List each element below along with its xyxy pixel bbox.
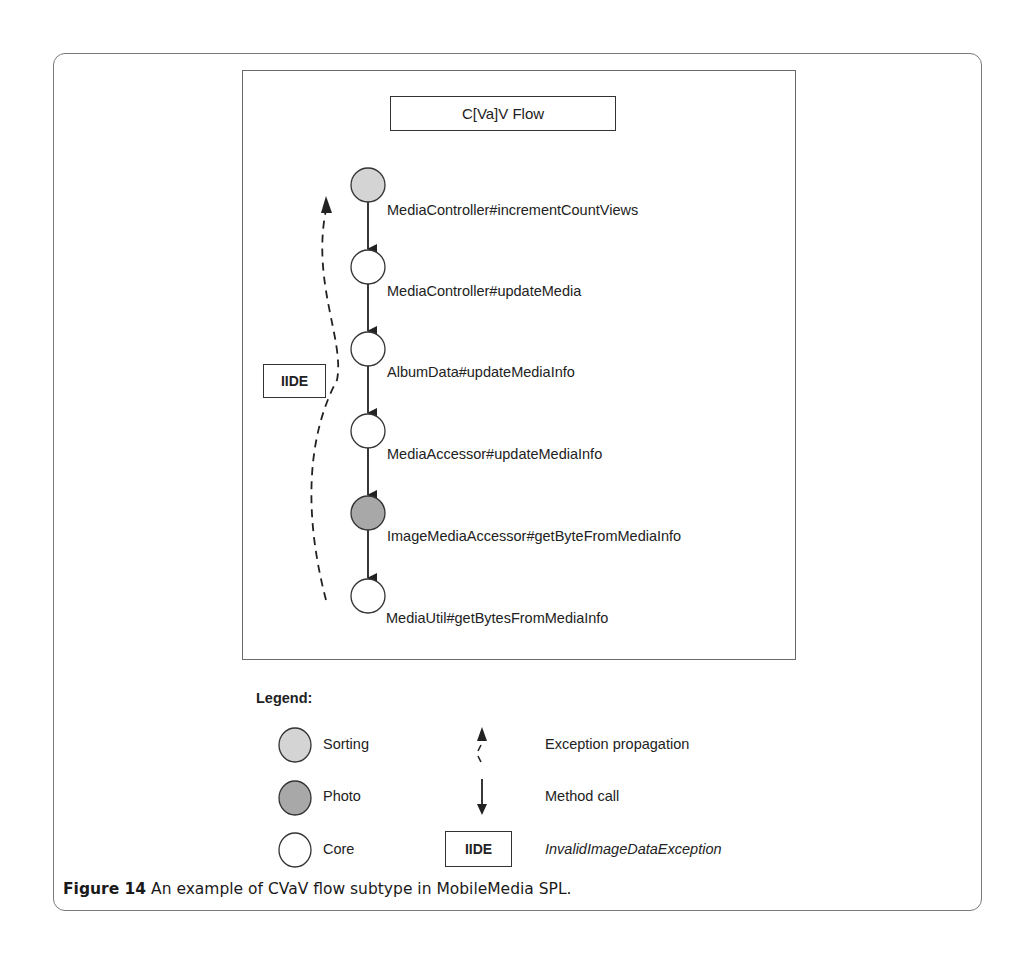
exception-label: IIDE xyxy=(281,373,308,389)
node-label: MediaAccessor#updateMediaInfo xyxy=(387,446,602,462)
node-label: MediaController#incrementCountViews xyxy=(387,202,638,218)
legend-label-exception-propagation: Exception propagation xyxy=(545,736,689,752)
legend-core-icon xyxy=(279,833,311,867)
node-label: ImageMediaAccessor#getByteFromMediaInfo xyxy=(387,528,681,544)
exception-label-box: IIDE xyxy=(263,364,326,398)
node-circle-core xyxy=(351,332,385,366)
exception-propagation-arrow xyxy=(311,205,338,600)
caption-text: An example of CVaV flow subtype in Mobil… xyxy=(146,880,571,898)
node-label: MediaUtil#getBytesFromMediaInfo xyxy=(386,610,608,626)
legend-iide-box: IIDE xyxy=(445,831,512,867)
flow-diagram-graphics xyxy=(0,0,1031,961)
figure-caption: Figure 14 An example of CVaV flow subtyp… xyxy=(63,880,571,898)
legend-label-core: Core xyxy=(323,841,354,857)
legend-label-method-call: Method call xyxy=(545,788,619,804)
node-circle-core xyxy=(351,250,385,284)
legend-method-call-arrow-icon xyxy=(477,779,487,815)
exception-arrowhead-icon xyxy=(321,196,332,213)
node-label: MediaController#updateMedia xyxy=(387,283,581,299)
caption-label: Figure 14 xyxy=(63,880,146,898)
node-circle-core xyxy=(351,414,385,448)
node-circle-sorting xyxy=(351,168,385,202)
legend-iide-label: IIDE xyxy=(465,841,492,857)
legend-photo-icon xyxy=(279,781,311,815)
legend-title: Legend: xyxy=(256,690,312,706)
node-circle-photo xyxy=(351,496,385,530)
legend-label-photo: Photo xyxy=(323,788,361,804)
legend-label-iide: InvalidImageDataException xyxy=(545,841,722,857)
node-circle-core xyxy=(351,579,385,613)
legend-label-sorting: Sorting xyxy=(323,736,369,752)
legend-sorting-icon xyxy=(279,728,311,762)
legend-exception-arrow-icon xyxy=(477,727,487,762)
node-label: AlbumData#updateMediaInfo xyxy=(387,364,575,380)
